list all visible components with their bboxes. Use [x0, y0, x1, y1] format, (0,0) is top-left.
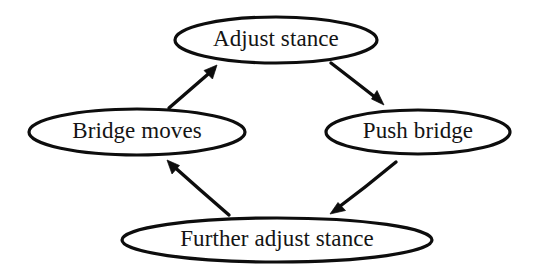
edge-line	[335, 162, 396, 210]
edge-bridge-moves-to-adjust-stance	[169, 65, 217, 108]
arrowhead-icon	[372, 91, 385, 106]
node-label-further-adjust-stance: Further adjust stance	[180, 226, 374, 251]
node-label-adjust-stance: Adjust stance	[213, 26, 339, 51]
edge-push-bridge-to-further-adjust-stance	[330, 162, 396, 214]
node-adjust-stance[interactable]: Adjust stance	[175, 17, 377, 63]
edge-line	[169, 69, 214, 108]
node-label-push-bridge: Push bridge	[363, 118, 473, 143]
node-label-bridge-moves: Bridge moves	[72, 118, 202, 143]
node-bridge-moves[interactable]: Bridge moves	[29, 109, 245, 155]
edge-line	[331, 63, 380, 101]
edge-further-adjust-stance-to-bridge-moves	[167, 160, 229, 215]
node-further-adjust-stance[interactable]: Further adjust stance	[122, 218, 432, 262]
edge-adjust-stance-to-push-bridge	[331, 63, 384, 105]
diagram-canvas: Adjust stance Push bridge Further adjust…	[0, 0, 534, 275]
edge-line	[171, 164, 229, 215]
node-push-bridge[interactable]: Push bridge	[326, 110, 510, 154]
nodes-layer: Adjust stance Push bridge Further adjust…	[29, 17, 510, 262]
cycle-diagram: Adjust stance Push bridge Further adjust…	[0, 0, 534, 275]
